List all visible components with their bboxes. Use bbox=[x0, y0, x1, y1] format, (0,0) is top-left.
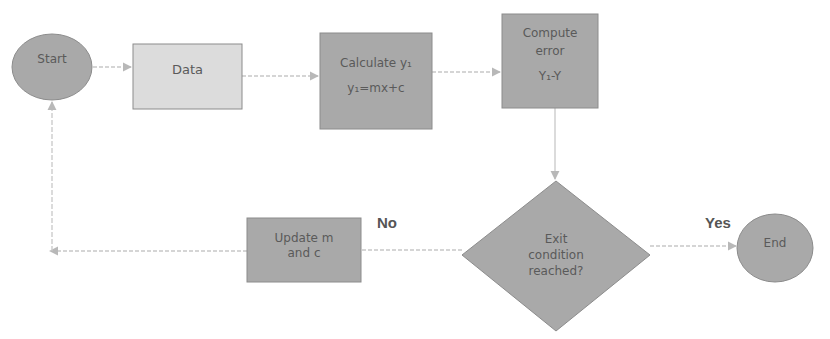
compute-label-line1: Compute bbox=[523, 26, 578, 41]
exit-label-line2: condition bbox=[528, 247, 583, 263]
exit-label-line1: Exit bbox=[545, 231, 568, 247]
update-label-box: Update m and c bbox=[247, 218, 361, 274]
start-label-box: Start bbox=[12, 34, 92, 84]
edge-label-no: No bbox=[377, 214, 397, 231]
edge-label-yes: Yes bbox=[705, 214, 731, 231]
end-label-box: End bbox=[737, 223, 813, 263]
calculate-label-line1: Calculate y₁ bbox=[340, 56, 412, 71]
start-label: Start bbox=[37, 52, 66, 67]
calculate-label-line2: y₁=mx+c bbox=[347, 81, 404, 96]
end-label: End bbox=[764, 236, 787, 251]
exit-label-line3: reached? bbox=[529, 263, 584, 279]
update-label-line2: and c bbox=[288, 246, 321, 261]
update-label-line1: Update m bbox=[275, 231, 334, 246]
compute-label-line2: error bbox=[535, 44, 564, 59]
calculate-label-box: Calculate y₁ y₁=mx+c bbox=[320, 40, 432, 112]
compute-label-line3: Y₁-Y bbox=[539, 69, 561, 84]
data-label: Data bbox=[172, 62, 203, 77]
compute-label-box: Compute error Y₁-Y bbox=[502, 14, 598, 96]
exit-label-box: Exit condition reached? bbox=[500, 225, 612, 285]
data-label-box: Data bbox=[133, 44, 242, 94]
